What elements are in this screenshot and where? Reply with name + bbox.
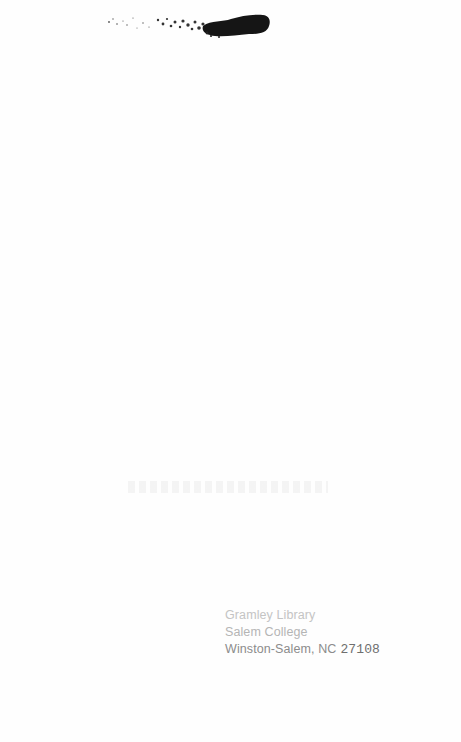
ink-smudge-mark <box>103 6 273 40</box>
stamp-college-name: Salem College <box>225 624 380 641</box>
stamp-library-name: Gramley Library <box>225 607 380 624</box>
document-page: Gramley Library Salem College Winston-Sa… <box>0 0 461 742</box>
bleed-through-text <box>128 481 328 493</box>
stamp-zip-code: 27108 <box>340 642 380 657</box>
stamp-address: Winston-Salem, NC27108 <box>225 641 380 658</box>
library-stamp: Gramley Library Salem College Winston-Sa… <box>225 607 380 658</box>
stamp-city-state: Winston-Salem, NC <box>225 642 336 656</box>
